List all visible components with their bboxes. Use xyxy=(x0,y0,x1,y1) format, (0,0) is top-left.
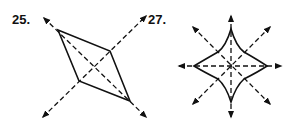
symmetry-line-diagonal-1 xyxy=(44,18,146,117)
symmetry-diagrams xyxy=(0,0,304,132)
figure-27 xyxy=(179,16,281,117)
figure-25 xyxy=(43,16,146,117)
